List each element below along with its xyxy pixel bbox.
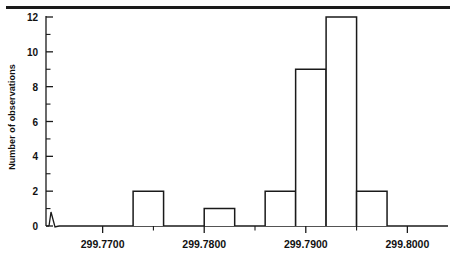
histogram-bar [133,191,163,226]
histogram-bar-outline [357,191,387,226]
x-axis-break-symbol [49,212,59,227]
histogram-bar [265,191,295,226]
histogram-bar [357,191,387,226]
x-axis-tick-label: 299.7900 [284,238,328,250]
x-axis-tick-label: 299.7700 [81,238,125,250]
plot-area [0,0,454,273]
x-axis-tick-label: 299.7800 [182,238,226,250]
histogram-bar-outline [265,191,295,226]
histogram-figure: Number of observations 024681012 299.770… [0,0,454,273]
histogram-bar-outline [326,17,356,226]
x-axis-tick-label: 299.8000 [385,238,429,250]
histogram-bar [296,69,326,226]
histogram-bar-outline [204,209,234,226]
histogram-bar-outline [296,69,326,226]
histogram-bar [204,209,234,226]
histogram-bar-outline [133,191,163,226]
histogram-bar [326,17,356,226]
